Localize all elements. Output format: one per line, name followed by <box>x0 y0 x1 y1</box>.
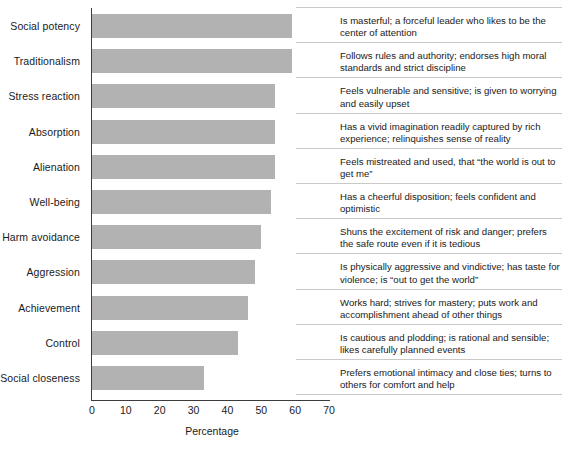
bar <box>92 331 238 355</box>
trait-description: Feels mistreated and used, that “the wor… <box>340 156 562 180</box>
description-separator <box>296 324 562 325</box>
description-separator <box>296 394 562 395</box>
plot-area: 010203040506070 Percentage <box>92 8 332 400</box>
description-column: Is masterful; a forceful leader who like… <box>340 0 566 420</box>
description-separator <box>296 7 562 8</box>
description-separator <box>296 359 562 360</box>
trait-description: Prefers emotional intimacy and close tie… <box>340 367 562 391</box>
bar <box>92 84 275 108</box>
category-label: Social closeness <box>0 372 80 384</box>
description-separator <box>296 77 562 78</box>
trait-description: Follows rules and authority; endorses hi… <box>340 50 562 74</box>
description-separator <box>296 42 562 43</box>
trait-description: Feels vulnerable and sensitive; is given… <box>340 85 562 109</box>
category-label: Stress reaction <box>0 90 80 102</box>
bar <box>92 120 275 144</box>
description-separator <box>296 289 562 290</box>
bar <box>92 225 261 249</box>
trait-description: Is cautious and plodding; is rational an… <box>340 332 562 356</box>
category-label: Achievement <box>0 302 80 314</box>
description-separator <box>296 218 562 219</box>
bar <box>92 260 255 284</box>
category-label: Absorption <box>0 126 80 138</box>
trait-description: Shuns the excitement of risk and danger;… <box>340 226 562 250</box>
category-label: Traditionalism <box>0 55 80 67</box>
trait-description: Works hard; strives for mastery; puts wo… <box>340 297 562 321</box>
trait-description: Is physically aggressive and vindictive;… <box>340 261 562 285</box>
bar <box>92 155 275 179</box>
bar <box>92 296 248 320</box>
description-separator <box>296 183 562 184</box>
x-tick-label: 0 <box>89 404 95 416</box>
personality-traits-bar-chart: Social potencyTraditionalismStress react… <box>0 0 566 457</box>
x-axis-title: Percentage <box>92 425 332 437</box>
description-separator <box>296 148 562 149</box>
x-tick-label: 70 <box>323 404 335 416</box>
x-tick-label: 40 <box>222 404 234 416</box>
bar <box>92 14 292 38</box>
category-label: Well-being <box>0 196 80 208</box>
category-label: Aggression <box>0 266 80 278</box>
bar <box>92 190 271 214</box>
description-separator <box>296 253 562 254</box>
category-label: Harm avoidance <box>0 231 80 243</box>
trait-description: Has a vivid imagination readily captured… <box>340 121 562 145</box>
x-tick-label: 30 <box>188 404 200 416</box>
bar <box>92 49 292 73</box>
x-tick-label: 60 <box>289 404 301 416</box>
x-axis-line <box>91 400 330 401</box>
x-tick-label: 50 <box>255 404 267 416</box>
category-label-column: Social potencyTraditionalismStress react… <box>0 0 80 400</box>
trait-description: Has a cheerful disposition; feels confid… <box>340 191 562 215</box>
category-label: Control <box>0 337 80 349</box>
category-label: Social potency <box>0 20 80 32</box>
bar <box>92 366 204 390</box>
category-label: Alienation <box>0 161 80 173</box>
x-tick-label: 10 <box>120 404 132 416</box>
x-tick-label: 20 <box>154 404 166 416</box>
trait-description: Is masterful; a forceful leader who like… <box>340 15 562 39</box>
description-separator <box>296 113 562 114</box>
